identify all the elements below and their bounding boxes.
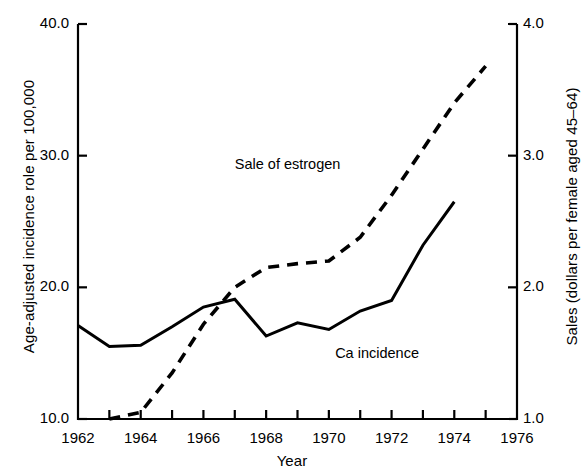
x-tick-label-1974: 1974 [424,429,484,446]
y-axis-left-title: Age-adjusted incidence role per 100,000 [20,67,37,367]
y-tick-label-left-0: 10.0 [23,409,69,426]
x-tick-label-1968: 1968 [236,429,296,446]
axis-spines [78,24,517,419]
x-axis-title: Year [0,452,584,469]
x-tick-label-1970: 1970 [299,429,359,446]
axes [78,24,517,419]
y-tick-label-left-1: 20.0 [23,277,69,294]
y-tick-label-right-1: 2.0 [523,277,569,294]
data-series [78,66,486,419]
y-tick-label-right-3: 4.0 [523,14,569,31]
y-tick-label-left-3: 40.0 [23,14,69,31]
series-annotation-ca-incidence: Ca incidence [335,345,419,361]
chart-figure: Age-adjusted incidence role per 100,000 … [0,0,584,475]
x-tick-label-1964: 1964 [111,429,171,446]
x-tick-label-1976: 1976 [487,429,547,446]
y-tick-label-left-2: 30.0 [23,146,69,163]
chart-plot-area [0,0,584,475]
x-tick-label-1972: 1972 [362,429,422,446]
x-tick-label-1962: 1962 [48,429,108,446]
y-tick-label-right-2: 3.0 [523,146,569,163]
y-axis-right-title: Sales (dollars per female aged 45–64) [563,67,580,367]
x-tick-label-1966: 1966 [173,429,233,446]
series-line-ca-incidence [78,202,454,347]
y-tick-label-right-0: 1.0 [523,409,569,426]
series-line-sale-of-estrogen [109,66,485,419]
series-annotation-sale-of-estrogen: Sale of estrogen [235,156,341,172]
